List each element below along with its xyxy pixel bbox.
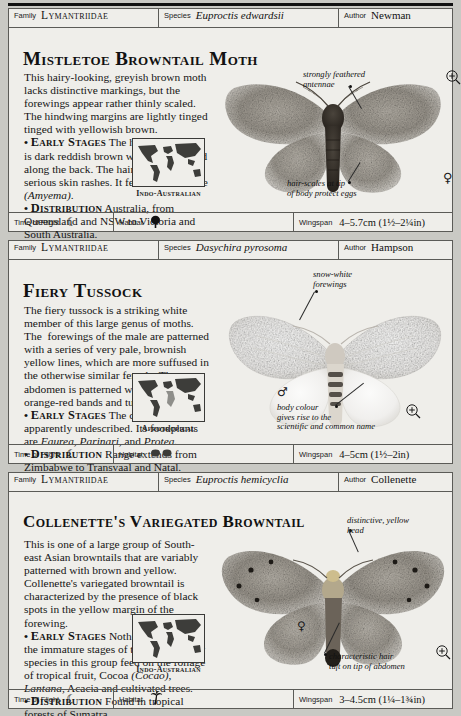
- author-cell: Author Hampson: [339, 241, 452, 259]
- habitat-cell: Habitat: [114, 213, 294, 231]
- species-cell: Species Euproctis edwardsii: [159, 9, 339, 27]
- species-value: Dasychira pyrosoma: [196, 241, 288, 253]
- female-symbol: ♀: [443, 170, 453, 185]
- wingspan-label: Wingspan: [299, 695, 332, 704]
- species-entry-1: Family Lymantriidae Species Euproctis ed…: [8, 8, 453, 232]
- map-frame: [132, 614, 205, 663]
- author-cell: Author Newman: [339, 9, 452, 27]
- wingspan-value: 4–5cm (1½–2in): [339, 449, 409, 460]
- author-label: Author: [344, 475, 366, 484]
- wingspan-label: Wingspan: [299, 450, 332, 459]
- wingspan-value: 4–5.7cm (1½–2¼in): [339, 217, 425, 228]
- family-cell: Family Lymantriidae: [9, 241, 159, 259]
- map-caption: Afrotropical: [132, 424, 205, 433]
- hair-scales-annotation: hair-scales at tipof body protect eggs: [287, 179, 357, 198]
- habitat-cell: Habitat: [114, 690, 294, 708]
- author-label: Author: [344, 11, 366, 20]
- entry-footer: Time of Flight ☾ Habitat W: [9, 689, 452, 708]
- time-of-flight-cell: Time of Flight ☾: [9, 445, 114, 463]
- body-colour-annotation: body colourgives rise to thescientific a…: [277, 403, 375, 432]
- habitat-label: Habitat: [119, 695, 143, 704]
- species-label: Species: [164, 475, 191, 484]
- map-frame: [132, 373, 205, 422]
- wingspan-cell: Wingspan 4–5.7cm (1½–2¼in): [294, 213, 452, 231]
- entry-footer: Time of Flight ☾ Habitat Wingspan 4–5.7c…: [9, 212, 452, 231]
- antennae-annotation: strongly featheredantennae: [303, 70, 365, 89]
- time-of-flight-label: Time of Flight: [14, 218, 59, 227]
- time-of-flight-cell: Time of Flight ☾: [9, 690, 114, 708]
- crescent-moon-icon: ☾: [66, 216, 77, 228]
- scrub-bushes-icon: [150, 448, 174, 461]
- magnifier-icon: [435, 644, 451, 660]
- entry-header: Family Lymantriidae Species Dasychira py…: [9, 241, 452, 260]
- distribution-map: Indo-Australian: [132, 614, 205, 663]
- habitat-cell: Habitat: [114, 445, 294, 463]
- crescent-moon-icon: ☾: [66, 448, 77, 460]
- female-symbol: ♀: [297, 619, 306, 633]
- map-frame: [132, 138, 205, 187]
- habitat-label: Habitat: [119, 218, 143, 227]
- distribution-map: Afrotropical: [132, 373, 205, 422]
- entry-header: Family Lymantriidae Species Euproctis ed…: [9, 9, 452, 28]
- forewings-annotation: snow-whiteforewings: [313, 270, 352, 289]
- family-value: Lymantriidae: [41, 473, 108, 485]
- time-of-flight-label: Time of Flight: [14, 450, 59, 459]
- species-label: Species: [164, 11, 191, 20]
- palm-tree-icon: [150, 691, 163, 707]
- broadleaf-tree-icon: [150, 215, 161, 230]
- habitat-label: Habitat: [119, 450, 143, 459]
- species-cell: Species Dasychira pyrosoma: [159, 241, 339, 259]
- forewings-annotation-dot: [315, 290, 318, 293]
- male-symbol: [445, 69, 461, 85]
- map-caption: Indo-Australian: [132, 665, 205, 674]
- yellow-head-annotation: distinctive, yellowhead: [347, 516, 409, 535]
- crescent-moon-icon: ☾: [66, 693, 77, 705]
- wingspan-label: Wingspan: [299, 218, 332, 227]
- time-of-flight-cell: Time of Flight ☾: [9, 213, 114, 231]
- map-caption: Indo-Australian: [132, 189, 205, 198]
- entry-footer: Time of Flight ☾ Habitat W: [9, 444, 452, 463]
- family-value: Lymantriidae: [41, 241, 108, 253]
- author-value: Hampson: [371, 241, 413, 253]
- author-value: Collenette: [371, 473, 416, 485]
- page-top-rule: [8, 3, 453, 6]
- distribution-map: Indo-Australian: [132, 138, 205, 187]
- family-value: Lymantriidae: [41, 9, 108, 21]
- author-label: Author: [344, 243, 366, 252]
- family-cell: Family Lymantriidae: [9, 473, 159, 491]
- author-cell: Author Collenette: [339, 473, 452, 491]
- magnifier-icon: [405, 403, 421, 419]
- species-entry-3: Family Lymantriidae Species Euproctis he…: [8, 472, 453, 709]
- wingspan-cell: Wingspan 3–4.5cm (1¼–1¾in): [294, 690, 452, 708]
- family-label: Family: [14, 11, 36, 20]
- species-value: Euproctis hemicyclia: [196, 473, 289, 485]
- hair-tuft-annotation: characteristic hairtuft on tip of abdome…: [329, 652, 405, 671]
- page-title: Collenette's Variegated Browntail: [23, 512, 305, 532]
- species-entry-2: Family Lymantriidae Species Dasychira py…: [8, 240, 453, 464]
- species-cell: Species Euproctis hemicyclia: [159, 473, 339, 491]
- wingspan-cell: Wingspan 4–5cm (1½–2in): [294, 445, 452, 463]
- page-title: Fiery Tussock: [23, 280, 142, 302]
- author-value: Newman: [371, 9, 411, 21]
- field-guide-page: Family Lymantriidae Species Euproctis ed…: [0, 0, 461, 716]
- family-cell: Family Lymantriidae: [9, 9, 159, 27]
- entry-header: Family Lymantriidae Species Euproctis he…: [9, 473, 452, 492]
- species-value: Euproctis edwardsii: [196, 9, 284, 21]
- male-symbol: ♂: [277, 385, 288, 399]
- wingspan-value: 3–4.5cm (1¼–1¾in): [339, 694, 425, 705]
- family-label: Family: [14, 243, 36, 252]
- page-title: Mistletoe Browntail Moth: [23, 48, 258, 70]
- species-label: Species: [164, 243, 191, 252]
- time-of-flight-label: Time of Flight: [14, 695, 59, 704]
- family-label: Family: [14, 475, 36, 484]
